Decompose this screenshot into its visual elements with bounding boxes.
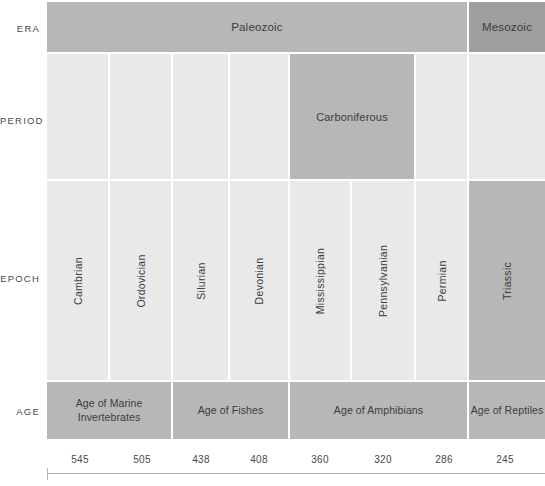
row-label-epoch: EPOCH xyxy=(0,273,40,284)
era-cell-paleozoic: Paleozoic xyxy=(47,2,467,52)
epoch-label-devonian: Devonian xyxy=(253,257,265,304)
axis-value-245: 245 xyxy=(482,454,528,465)
epoch-label-triassic: Triassic xyxy=(501,261,513,299)
period-cell-carboniferous: Carboniferous xyxy=(290,54,414,179)
epoch-cell-silurian: Silurian xyxy=(173,181,228,380)
epoch-label-pennsylvanian: Pennsylvanian xyxy=(377,244,389,316)
axis-start-tick xyxy=(47,468,48,480)
row-label-age: AGE xyxy=(0,406,40,417)
epoch-label-mississippian: Mississippian xyxy=(314,247,326,313)
axis-value-545: 545 xyxy=(57,454,103,465)
epoch-label-ordovician: Ordovician xyxy=(134,254,146,307)
axis-value-360: 360 xyxy=(297,454,343,465)
period-cell-cambrian xyxy=(47,54,108,179)
axis-value-286: 286 xyxy=(421,454,467,465)
epoch-cell-cambrian: Cambrian xyxy=(47,181,108,380)
period-cell-devonian xyxy=(230,54,288,179)
era-cell-mesozoic: Mesozoic xyxy=(469,2,545,52)
axis-value-438: 438 xyxy=(178,454,224,465)
epoch-cell-pennsylvanian: Pennsylvanian xyxy=(352,181,414,380)
epoch-cell-mississippian: Mississippian xyxy=(290,181,350,380)
row-label-era: ERA xyxy=(0,23,40,34)
epoch-cell-devonian: Devonian xyxy=(230,181,288,380)
epoch-cell-triassic: Triassic xyxy=(469,181,545,380)
age-cell-reptiles: Age of Reptiles xyxy=(469,382,545,439)
age-cell-marine-invertebrates: Age of Marine Invertebrates xyxy=(47,382,171,439)
epoch-cell-permian: Permian xyxy=(416,181,467,380)
epoch-label-silurian: Silurian xyxy=(194,262,206,299)
period-cell-ordovician xyxy=(110,54,171,179)
age-cell-amphibians: Age of Amphibians xyxy=(290,382,467,439)
geologic-time-scale-chart: ERA PERIOD EPOCH AGE Paleozoic Mesozoic … xyxy=(0,0,545,486)
age-cell-fishes: Age of Fishes xyxy=(173,382,288,439)
period-cell-silurian xyxy=(173,54,228,179)
epoch-label-cambrian: Cambrian xyxy=(71,257,83,305)
row-label-period: PERIOD xyxy=(0,115,40,126)
axis-value-505: 505 xyxy=(119,454,165,465)
axis-value-408: 408 xyxy=(236,454,282,465)
period-cell-triassic xyxy=(469,54,545,179)
period-cell-permian xyxy=(416,54,467,179)
epoch-cell-ordovician: Ordovician xyxy=(110,181,171,380)
axis-value-320: 320 xyxy=(360,454,406,465)
axis-baseline xyxy=(47,473,545,474)
epoch-label-permian: Permian xyxy=(435,260,447,301)
